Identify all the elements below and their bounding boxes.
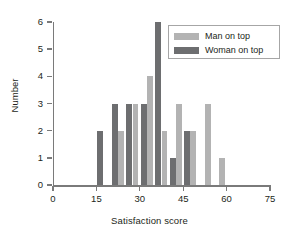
bar-woman-on-top (170, 158, 176, 185)
bar-man-on-top (118, 131, 124, 185)
y-tick (47, 130, 52, 131)
bar-man-on-top (162, 131, 168, 185)
x-tick-label: 0 (41, 194, 65, 204)
x-tick-label: 60 (215, 194, 239, 204)
chart-figure: Number 0123456 01530456075 Satisfaction … (0, 0, 299, 240)
legend-swatch-man (174, 33, 199, 40)
legend-item-man: Man on top (174, 30, 274, 42)
y-tick (47, 184, 52, 185)
legend: Man on top Woman on top (168, 25, 280, 59)
y-tick-label: 6 (30, 17, 43, 27)
y-tick (47, 157, 52, 158)
y-tick (47, 48, 52, 49)
x-tick-label: 75 (258, 194, 282, 204)
x-tick-label: 30 (128, 194, 152, 204)
bar-woman-on-top (126, 104, 132, 186)
bar-man-on-top (147, 76, 153, 185)
y-tick-label: 3 (30, 99, 43, 109)
x-tick (52, 186, 53, 191)
y-axis-title: Number (9, 66, 20, 126)
x-tick (139, 186, 140, 191)
bar-man-on-top (219, 158, 225, 185)
x-tick (226, 186, 227, 191)
bar-woman-on-top (141, 104, 147, 186)
y-tick-label: 4 (30, 71, 43, 81)
y-tick (47, 76, 52, 77)
bar-man-on-top (205, 104, 211, 186)
y-tick-label: 2 (30, 126, 43, 136)
y-tick-label: 0 (30, 180, 43, 190)
bar-woman-on-top (155, 22, 161, 185)
y-tick-label: 5 (30, 44, 43, 54)
x-tick (183, 186, 184, 191)
legend-item-woman: Woman on top (174, 44, 274, 56)
y-tick-label: 1 (30, 153, 43, 163)
x-tick (269, 186, 270, 191)
bar-woman-on-top (184, 131, 190, 185)
x-axis-line (53, 185, 271, 187)
x-tick-label: 15 (84, 194, 108, 204)
bar-woman-on-top (112, 104, 118, 186)
x-tick-label: 45 (171, 194, 195, 204)
bar-woman-on-top (97, 131, 103, 185)
x-axis-title: Satisfaction score (0, 215, 299, 226)
y-tick (47, 21, 52, 22)
legend-label-man: Man on top (205, 31, 250, 41)
legend-label-woman: Woman on top (205, 45, 263, 55)
x-tick (96, 186, 97, 191)
y-tick (47, 103, 52, 104)
bar-man-on-top (190, 131, 196, 185)
legend-swatch-woman (174, 47, 199, 54)
bar-man-on-top (176, 104, 182, 186)
bar-man-on-top (133, 104, 139, 186)
